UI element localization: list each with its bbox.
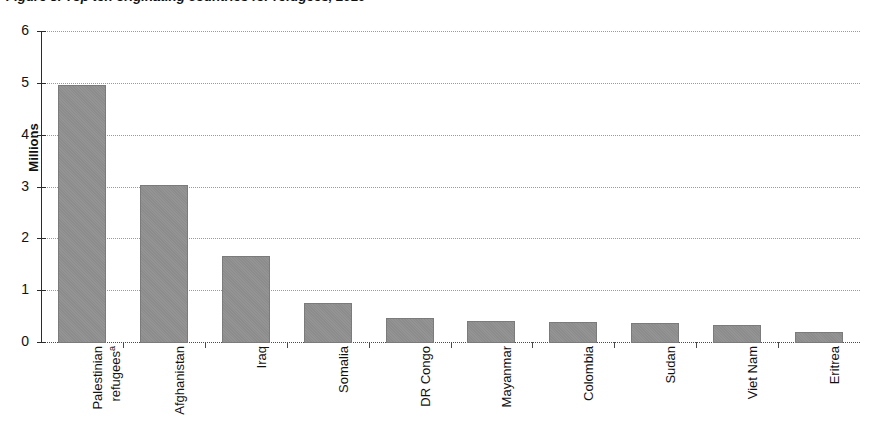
y-axis-tick-label: 5 xyxy=(3,74,29,90)
plot-area xyxy=(41,31,860,342)
bar-series xyxy=(41,31,860,343)
bar xyxy=(713,325,761,343)
chart-title: Figure 3. Top ten originating countries … xyxy=(6,0,366,4)
y-axis-tick-label: 1 xyxy=(3,281,29,297)
figure-container: Figure 3. Top ten originating countries … xyxy=(0,0,876,439)
x-axis-label: DR Congo xyxy=(418,346,433,439)
bar xyxy=(58,85,106,343)
bar xyxy=(467,321,515,343)
x-axis-label: Afghanistan xyxy=(172,346,187,439)
x-axis-label: Mayanmar xyxy=(499,346,514,439)
bar xyxy=(222,256,270,343)
y-axis-tick-label: 4 xyxy=(3,126,29,142)
x-axis-label: Colombia xyxy=(581,346,596,439)
y-axis-tick-label: 6 xyxy=(3,22,29,38)
x-axis-label: Eritrea xyxy=(827,346,842,439)
bar xyxy=(386,318,434,343)
bar xyxy=(795,332,843,343)
y-axis-tick-label: 3 xyxy=(3,178,29,194)
x-axis-label: Viet Nam xyxy=(745,346,760,439)
x-axis-category-labels: PalestinianrefugeesaAfghanistanIraqSomal… xyxy=(41,346,860,439)
x-axis-label: Palestinianrefugeesa xyxy=(90,346,123,439)
bar xyxy=(631,323,679,343)
x-axis-label: Somalia xyxy=(336,346,351,439)
y-axis-tick-label: 2 xyxy=(3,229,29,245)
bar xyxy=(140,185,188,343)
x-axis-label: Sudan xyxy=(663,346,678,439)
x-axis-label: Iraq xyxy=(254,346,269,439)
bar xyxy=(304,303,352,343)
bar xyxy=(549,322,597,343)
y-axis-tick-label: 0 xyxy=(3,333,29,349)
